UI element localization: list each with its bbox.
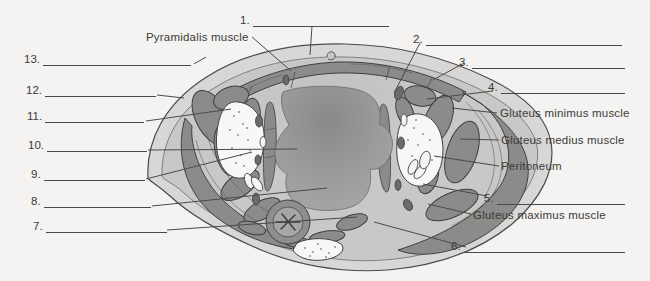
answer-blank-8[interactable] bbox=[44, 195, 151, 208]
leader-13 bbox=[194, 57, 206, 64]
answer-blank-2[interactable] bbox=[426, 33, 622, 46]
label-5: 5. bbox=[484, 192, 625, 205]
blank-number-1: 1. bbox=[240, 14, 250, 27]
label-8: 8. bbox=[31, 195, 151, 208]
left-ilium-bone bbox=[216, 102, 264, 178]
label-pyramidalis-muscle: Pyramidalis muscle bbox=[146, 31, 249, 44]
coccyx-bone bbox=[293, 239, 343, 261]
leader-12 bbox=[157, 95, 184, 98]
label-peritoneum: Peritoneum bbox=[501, 160, 562, 173]
answer-blank-11[interactable] bbox=[45, 110, 144, 123]
answer-blank-7[interactable] bbox=[46, 220, 167, 233]
label-gluteus-minimus-muscle: Gluteus minimus muscle bbox=[500, 107, 630, 120]
linea-alba-notch bbox=[327, 52, 335, 60]
answer-blank-1[interactable] bbox=[253, 14, 389, 27]
label-gluteus-maximus-muscle: Gluteus maximus muscle bbox=[473, 209, 606, 222]
answer-blank-9[interactable] bbox=[44, 168, 145, 181]
blank-number-2: 2. bbox=[413, 33, 423, 46]
answer-blank-10[interactable] bbox=[47, 139, 147, 152]
blank-number-13: 13. bbox=[24, 53, 40, 66]
answer-blank-13[interactable] bbox=[43, 53, 191, 66]
label-2: 2. bbox=[413, 33, 622, 46]
pelvis-worksheet: 1. 2. 3. 4. 5. 6. 13. 12. 11. 10. 9. bbox=[0, 0, 650, 281]
label-12: 12. bbox=[26, 84, 156, 97]
label-9: 9. bbox=[31, 168, 145, 181]
label-4: 4. bbox=[488, 81, 625, 94]
blank-number-10: 10. bbox=[28, 139, 44, 152]
blank-number-5: 5. bbox=[484, 192, 494, 205]
blank-number-7: 7. bbox=[33, 220, 43, 233]
blank-number-11: 11. bbox=[27, 110, 42, 123]
label-1: 1. bbox=[240, 14, 389, 27]
blank-number-3: 3. bbox=[459, 56, 469, 69]
blank-number-6: 6. bbox=[451, 240, 461, 253]
blank-number-4: 4. bbox=[488, 81, 498, 94]
label-3: 3. bbox=[459, 56, 625, 69]
blank-number-9: 9. bbox=[31, 168, 41, 181]
blank-number-12: 12. bbox=[26, 84, 42, 97]
blank-number-8: 8. bbox=[31, 195, 41, 208]
label-10: 10. bbox=[28, 139, 147, 152]
label-6: 6. bbox=[451, 240, 625, 253]
answer-blank-6[interactable] bbox=[464, 240, 625, 253]
label-11: 11. bbox=[27, 110, 144, 123]
label-gluteus-medius-muscle: Gluteus medius muscle bbox=[501, 134, 625, 147]
answer-blank-3[interactable] bbox=[472, 56, 625, 69]
answer-blank-4[interactable] bbox=[501, 81, 625, 94]
answer-blank-12[interactable] bbox=[45, 84, 156, 97]
answer-blank-5[interactable] bbox=[497, 192, 625, 205]
label-13: 13. bbox=[24, 53, 191, 66]
label-7: 7. bbox=[33, 220, 167, 233]
